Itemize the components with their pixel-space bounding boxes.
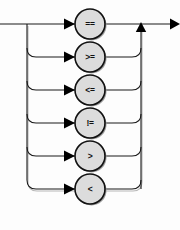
branch-row-3: != [27,108,141,140]
branch-arrow-icon-5 [64,184,75,195]
branch-row-5: < [36,174,141,206]
node-label-3: != [86,118,94,128]
branch-out-line-1 [105,48,141,57]
exit-arrow-icon [170,19,180,30]
left-rail-shadow [28,26,75,191]
branch-row-4: > [27,141,141,173]
node-label-2: <= [85,85,95,95]
branch-arrow-icon-4 [64,151,75,162]
node-label-5: < [88,184,93,194]
branch-out-line-2 [105,81,141,90]
branch-arrow-icon-3 [64,118,75,129]
branch-arrow-icon-1 [64,52,75,63]
railroad-diagram: == >= <= != [0,0,180,230]
node-label-1: >= [85,52,95,62]
branch-out-line-4 [105,147,141,156]
right-rail-shadow [106,28,142,191]
branch-row-2: <= [27,75,141,107]
right-rail-group [136,22,146,189]
branch-arrow-icon-2 [64,85,75,96]
railroad-diagram-canvas: == >= <= != [0,0,180,230]
branch-row-0: == [64,9,107,41]
branch-out-line-3 [105,114,141,123]
branch-out-line-5 [105,180,141,189]
node-label-0: == [85,19,95,29]
branch-row-1: >= [27,42,141,74]
branch-arrow-icon-0 [64,19,75,30]
node-label-4: > [88,151,93,161]
